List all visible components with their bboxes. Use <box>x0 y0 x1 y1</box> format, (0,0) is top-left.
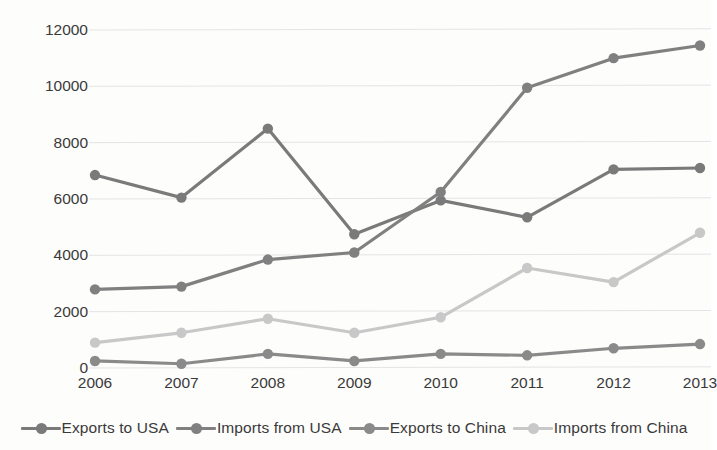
x-axis-tick-label: 2013 <box>683 374 717 392</box>
line-chart: 020004000600080001000012000 200620072008… <box>0 0 711 405</box>
legend-swatch-icon <box>349 421 389 435</box>
x-axis-tick-label: 2008 <box>251 374 285 392</box>
legend-item-exports-to-china[interactable]: Exports to China <box>349 419 509 437</box>
legend-item-imports-from-usa[interactable]: Imports from USA <box>176 419 345 437</box>
legend-label: Imports from USA <box>216 419 345 437</box>
x-axis-tick-label: 2006 <box>78 374 112 392</box>
legend-swatch-icon <box>513 421 553 435</box>
legend-marker-dot <box>364 423 375 434</box>
legend-marker-dot <box>528 423 539 434</box>
legend-label: Exports to China <box>389 419 509 437</box>
legend-label: Exports to USA <box>61 419 172 437</box>
legend-label: Imports from China <box>553 419 691 437</box>
legend-item-exports-to-usa[interactable]: Exports to USA <box>21 419 172 437</box>
x-axis-tick-label: 2010 <box>423 374 457 392</box>
legend-marker-dot <box>191 423 202 434</box>
legend-swatch-icon <box>21 421 61 435</box>
x-axis-tick-label: 2011 <box>510 374 543 392</box>
x-axis-tick-label: 2009 <box>337 374 371 392</box>
x-axis-labels: 20062007200820092010201120122013 <box>0 0 711 405</box>
chart-legend: Exports to USAImports from USAExports to… <box>0 405 711 450</box>
legend-item-imports-from-china[interactable]: Imports from China <box>513 419 691 437</box>
x-axis-tick-label: 2012 <box>596 374 630 392</box>
x-axis-tick-label: 2007 <box>164 374 198 392</box>
legend-swatch-icon <box>176 421 216 435</box>
legend-marker-dot <box>36 423 47 434</box>
